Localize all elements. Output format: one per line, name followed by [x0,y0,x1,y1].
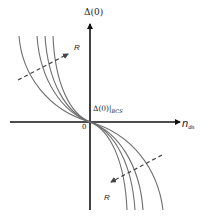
bcs-label-sub: BCS [112,108,123,114]
bcs-label: Δ(0)|BCS [93,104,123,114]
y-axis-label: Δ(0) [84,7,103,17]
arrow-bottom-label: R [104,193,110,202]
curve-group [19,36,163,210]
arrow-top-label: R [74,43,80,52]
origin-label: 0 [82,123,86,131]
x-axis-label-sub: dis [188,124,194,130]
bcs-label-main: Δ(0)| [93,104,112,113]
dashed-arrow-top [18,54,68,80]
x-axis-label: ndis [182,117,195,130]
